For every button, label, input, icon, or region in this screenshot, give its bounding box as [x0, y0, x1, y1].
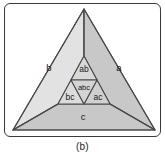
venn-triangle-diagram: a b c ab ac bc abc: [5, 4, 161, 137]
region-label-b: b: [46, 62, 51, 73]
figure-container: a b c ab ac bc abc (b): [0, 0, 165, 163]
region-label-bc: bc: [66, 92, 76, 102]
figure-caption: (b): [0, 141, 165, 152]
region-label-c: c: [81, 111, 86, 122]
diagram-frame: a b c ab ac bc abc: [4, 3, 161, 137]
region-label-a: a: [116, 62, 122, 73]
region-label-abc: abc: [78, 83, 90, 92]
region-label-ab: ab: [79, 64, 89, 74]
region-label-ac: ac: [94, 92, 104, 102]
